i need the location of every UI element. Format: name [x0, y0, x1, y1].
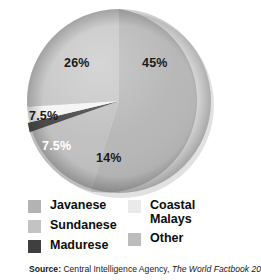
- legend-item-sundanese[interactable]: Sundanese: [28, 218, 117, 233]
- source-prefix-label: Source:: [29, 264, 61, 274]
- source-agency-text: Central Intelligence Agency,: [61, 264, 172, 274]
- color-swatch-icon: [128, 200, 141, 213]
- source-publication-title: The World Factbook 2003: [172, 264, 261, 274]
- legend-column-left: Javanese Sundanese Madurese: [28, 198, 117, 258]
- chart-legend: Javanese Sundanese Madurese Coastal Mala…: [0, 198, 261, 260]
- color-swatch-icon: [28, 240, 41, 253]
- legend-label-sundanese: Sundanese: [50, 218, 117, 232]
- legend-label-other: Other: [150, 231, 183, 245]
- pie-chart-figure: 45% 26% 14% 7.5% 7.5% Javanese Sundanese…: [0, 0, 261, 280]
- legend-item-javanese[interactable]: Javanese: [28, 198, 117, 213]
- color-swatch-icon: [128, 233, 141, 246]
- legend-label-javanese: Javanese: [50, 198, 106, 212]
- source-attribution: Source: Central Intelligence Agency, The…: [29, 264, 261, 275]
- pie-edge-shading: [27, 9, 211, 193]
- legend-item-madurese[interactable]: Madurese: [28, 238, 117, 253]
- legend-column-right: Coastal Malays Other: [128, 198, 195, 251]
- color-swatch-icon: [28, 200, 41, 213]
- legend-label-coastal-malays: Coastal Malays: [150, 198, 195, 226]
- legend-item-coastal-malays[interactable]: Coastal Malays: [128, 198, 195, 226]
- pie-chart-svg: [0, 0, 261, 198]
- legend-label-madurese: Madurese: [50, 238, 108, 252]
- pie-chart-area: 45% 26% 14% 7.5% 7.5%: [0, 0, 261, 198]
- color-swatch-icon: [28, 220, 41, 233]
- legend-item-other[interactable]: Other: [128, 231, 195, 246]
